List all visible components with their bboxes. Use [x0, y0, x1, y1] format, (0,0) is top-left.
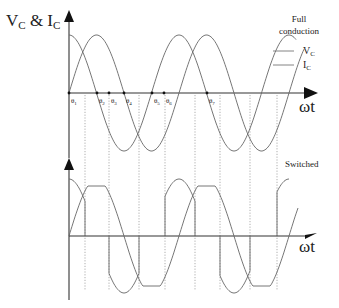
theta-mark	[123, 92, 126, 95]
theta-mark	[96, 92, 99, 95]
theta-label: θ6	[166, 97, 172, 106]
switched-label: Switched	[285, 159, 319, 169]
theta-mark	[68, 92, 71, 95]
legend-label-vc: VC	[303, 45, 315, 58]
theta-label: θ2	[99, 97, 105, 106]
legend-label-ic: IC	[303, 59, 311, 72]
theta-mark	[151, 92, 154, 95]
top-y-axis-arrow-icon	[64, 10, 74, 22]
theta-label: θ1	[71, 97, 77, 106]
theta-label: θ7	[209, 97, 215, 106]
theta-labels: θ1θ2θ3θ4θ5θ6θ7	[71, 97, 215, 106]
theta-mark	[108, 92, 111, 95]
top-chart: θ1θ2θ3θ4θ5θ6θ7 VC & IC ωt Full conductio…	[6, 10, 319, 158]
dotted-guide-lines	[85, 95, 277, 290]
theta-label: θ5	[154, 97, 160, 106]
bottom-chart: ωt Switched	[64, 158, 319, 300]
bottom-x-label: ωt	[299, 237, 315, 256]
top-x-label: ωt	[299, 97, 315, 116]
theta-mark	[206, 92, 209, 95]
waveform-diagram: θ1θ2θ3θ4θ5θ6θ7 VC & IC ωt Full conductio…	[0, 0, 339, 308]
theta-label: θ4	[126, 97, 132, 106]
theta-label: θ3	[111, 97, 117, 106]
bottom-y-axis-arrow-icon	[64, 158, 74, 170]
theta-mark	[163, 92, 166, 95]
legend-title-line1: Full	[292, 14, 307, 24]
legend-title-line2: conduction	[279, 26, 319, 36]
top-y-label: VC & IC	[6, 11, 60, 31]
